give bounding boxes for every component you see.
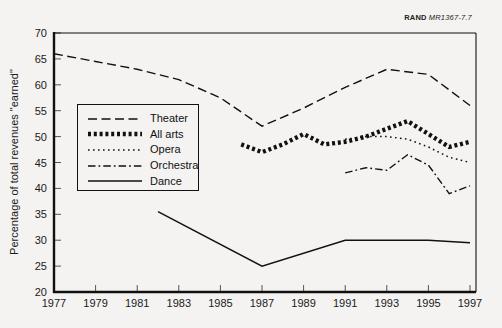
- x-tick-label: 1997: [458, 297, 482, 309]
- x-tick-label: 1977: [42, 297, 66, 309]
- figure-number: MR1367-7.7: [429, 13, 472, 22]
- legend-line-sample-theater: [87, 114, 143, 124]
- x-tick-label: 1987: [250, 297, 274, 309]
- y-tick-label: 70: [35, 27, 47, 39]
- legend-label-all-arts: All arts: [150, 129, 184, 140]
- legend-item-all-arts: All arts: [87, 127, 198, 143]
- y-tick-label: 50: [35, 131, 47, 143]
- legend-line-sample-dance: [87, 176, 143, 186]
- x-tick-label: 1985: [208, 297, 232, 309]
- chart-canvas: 2025303540455055606570197719791981198319…: [0, 0, 502, 328]
- y-tick-label: 60: [35, 79, 47, 91]
- series-line-dance: [158, 212, 470, 266]
- line-chart: 2025303540455055606570197719791981198319…: [0, 0, 502, 328]
- x-tick-label: 1981: [125, 297, 149, 309]
- y-tick-label: 30: [35, 234, 47, 246]
- legend-line-sample-all-arts: [87, 129, 143, 139]
- legend-item-dance: Dance: [87, 173, 198, 189]
- y-tick-label: 25: [35, 260, 47, 272]
- legend-label-theater: Theater: [150, 113, 188, 124]
- series-line-all-arts: [241, 121, 470, 152]
- legend-item-opera: Opera: [87, 142, 198, 158]
- legend-item-orchestra: Orchestra: [87, 158, 198, 174]
- y-tick-label: 45: [35, 157, 47, 169]
- legend-line-sample-orchestra: [87, 161, 143, 171]
- legend-item-theater: Theater: [87, 111, 198, 127]
- x-tick-label: 1995: [416, 297, 440, 309]
- x-tick-label: 1993: [375, 297, 399, 309]
- legend-label-opera: Opera: [150, 144, 181, 155]
- y-tick-label: 65: [35, 53, 47, 65]
- x-tick-label: 1983: [167, 297, 191, 309]
- y-tick-label: 55: [35, 105, 47, 117]
- figure-credit: RANDMR1367-7.7: [404, 13, 472, 22]
- legend-label-dance: Dance: [150, 176, 182, 187]
- legend-label-orchestra: Orchestra: [150, 160, 198, 171]
- series-line-opera: [345, 137, 470, 163]
- rand-logo-text: RAND: [404, 13, 426, 22]
- y-tick-label: 40: [35, 182, 47, 194]
- x-tick-label: 1991: [333, 297, 357, 309]
- x-tick-label: 1989: [291, 297, 315, 309]
- series-line-orchestra: [345, 155, 470, 194]
- x-tick-label: 1979: [83, 297, 107, 309]
- y-axis-title: Percentage of total revenues "earned": [8, 69, 20, 255]
- legend: Theater All arts Opera Orchestra Dance: [77, 104, 199, 191]
- legend-line-sample-opera: [87, 145, 143, 155]
- y-tick-label: 35: [35, 208, 47, 220]
